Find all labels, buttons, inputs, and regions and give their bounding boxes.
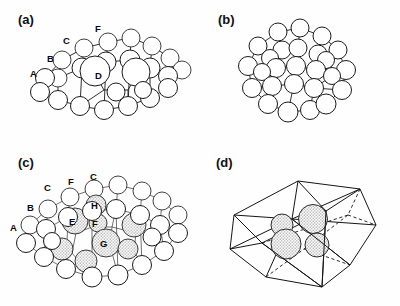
panel-c-label: (c)	[18, 155, 34, 170]
site-label-c-A: A	[10, 223, 17, 233]
panel-d-polyhedron	[200, 153, 400, 306]
panel-a: (a)	[0, 0, 200, 153]
site-label-c-C2: C	[90, 172, 97, 182]
site-label-c-F: F	[92, 219, 98, 229]
panel-b: (b)	[200, 0, 400, 153]
site-label-c-C1: C	[44, 183, 51, 193]
panel-d-label: (d)	[216, 155, 233, 170]
cage-outer-edges	[230, 181, 376, 287]
panel-b-label: (b)	[218, 12, 235, 27]
atom-shaded-lower-right	[118, 239, 138, 259]
site-label-c-B: B	[27, 203, 34, 213]
panel-d: (d)	[200, 153, 400, 306]
enclosed-atom-group	[271, 205, 329, 260]
site-label-a-D: D	[95, 71, 102, 81]
panel-c-structure	[0, 153, 200, 306]
panel-a-label: (a)	[18, 12, 34, 27]
site-label-a-A: A	[30, 69, 37, 79]
atom-group-b	[239, 19, 356, 122]
site-label-a-B: B	[47, 54, 54, 64]
site-label-c-F-top: F	[68, 177, 74, 187]
enclosed-atom-top-right	[299, 205, 328, 234]
site-label-c-E: E	[69, 217, 75, 227]
enclosed-atom-lower-left	[271, 229, 301, 259]
site-label-c-G: G	[100, 239, 107, 249]
site-label-c-H: H	[91, 201, 98, 211]
site-label-a-F: F	[95, 24, 101, 34]
site-label-a-C: C	[63, 36, 70, 46]
panel-c: (c)	[0, 153, 200, 306]
figure-canvas: (a)	[0, 0, 400, 306]
